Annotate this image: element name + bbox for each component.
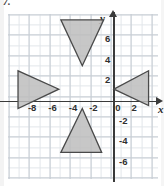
top-triangle xyxy=(61,20,104,66)
right-triangle xyxy=(114,71,149,106)
x-axis-label: x xyxy=(158,104,164,115)
problem-number: 7. xyxy=(3,0,11,7)
left-triangle xyxy=(18,71,59,109)
triangle-shapes-layer xyxy=(8,14,158,179)
bottom-triangle xyxy=(61,109,102,153)
coordinate-graph: x y -8 -6 -4 -2 0 2 6 4 2 -2 -4 -6 xyxy=(8,14,158,179)
page-edge-left xyxy=(0,0,4,186)
page-edge-right xyxy=(161,0,164,186)
